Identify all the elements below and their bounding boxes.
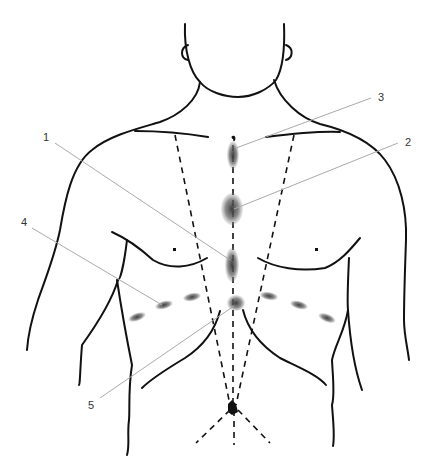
spot-4-left-3 [127,310,147,324]
label-3: 3 [378,91,384,103]
torso-sides-outline [79,240,362,455]
label-2: 2 [405,136,411,148]
spot-4-right-1 [259,290,278,301]
leader-5 [100,306,234,398]
leader-4 [32,228,162,305]
spot-1-lower-sternum [225,248,239,282]
spot-4-right-2 [289,299,308,311]
spot-4-right-3 [317,311,337,325]
label-1: 1 [43,131,49,143]
leader-1 [55,143,230,260]
costal-margins [142,310,326,388]
marker-spots [127,141,337,325]
torso-diagram: 1 2 3 4 5 [0,0,431,465]
right-nipple [315,248,318,251]
reference-lines [175,135,294,445]
label-4: 4 [21,216,27,228]
leader-3 [236,98,371,148]
spot-3-upper-sternum [227,141,239,169]
label-5: 5 [88,399,94,411]
leader-lines [32,98,398,398]
spot-4-left-2 [154,299,173,311]
spot-2-mid-sternum [221,193,243,225]
umbilicus [228,400,238,415]
spot-4-left-1 [182,291,201,303]
left-nipple [173,248,176,251]
leader-2 [234,143,398,209]
